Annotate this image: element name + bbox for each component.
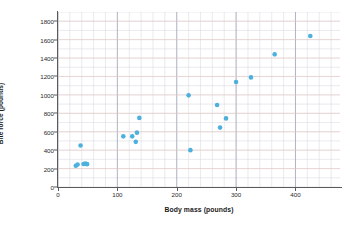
data-point: 33, 245 (75, 162, 80, 167)
y-tick-mark (54, 150, 57, 151)
data-point: 283, 745 (224, 116, 229, 121)
y-tick-label: 200 (28, 165, 54, 172)
x-axis-line (57, 187, 342, 188)
data-point: 131, 490 (133, 140, 138, 145)
scatter-chart-figure: Bite force (pounds) 30, 23033, 24538, 45… (0, 0, 350, 227)
data-point: 110, 550 (121, 134, 126, 139)
y-tick-label: 1000 (28, 91, 54, 98)
data-point: 300, 1140 (234, 80, 239, 85)
data-point: 268, 890 (215, 103, 220, 108)
x-tick-mark (117, 188, 118, 191)
y-tick-mark (54, 113, 57, 114)
y-tick-label: 1600 (28, 36, 54, 43)
y-tick-mark (54, 187, 57, 188)
x-axis-title: Body mass (pounds) (58, 206, 340, 213)
y-tick-label: 400 (28, 147, 54, 154)
data-point: 325, 1190 (249, 75, 254, 80)
x-tick-label: 400 (280, 191, 310, 198)
x-tick-label: 300 (221, 191, 251, 198)
x-tick-mark (58, 188, 59, 191)
y-tick-mark (54, 94, 57, 95)
y-axis-line (57, 11, 58, 188)
data-point: 49, 248 (85, 162, 90, 167)
y-tick-label: 1800 (28, 18, 54, 25)
y-tick-label: 1200 (28, 73, 54, 80)
x-tick-mark (177, 188, 178, 191)
x-tick-label: 200 (162, 191, 192, 198)
x-tick-label: 100 (102, 191, 132, 198)
y-tick-mark (54, 21, 57, 22)
y-tick-mark (54, 39, 57, 40)
y-tick-mark (54, 168, 57, 169)
data-point: 365, 1440 (272, 52, 277, 57)
y-tick-mark (54, 58, 57, 59)
y-tick-label: 800 (28, 110, 54, 117)
data-points-layer: 30, 23033, 24538, 45043, 25046, 25549, 2… (58, 12, 340, 187)
x-tick-label: 0 (43, 191, 73, 198)
data-point: 137, 750 (137, 116, 142, 121)
x-tick-mark (295, 188, 296, 191)
x-tick-mark (236, 188, 237, 191)
data-point: 220, 995 (186, 93, 191, 98)
data-point: 133, 590 (135, 130, 140, 135)
data-point: 125, 550 (130, 134, 135, 139)
y-tick-label: 0 (28, 184, 54, 191)
data-point: 223, 400 (188, 148, 193, 153)
data-point: 38, 450 (78, 143, 83, 148)
y-tick-label: 600 (28, 128, 54, 135)
data-point: 425, 1640 (308, 34, 313, 39)
y-tick-mark (54, 76, 57, 77)
y-tick-mark (54, 131, 57, 132)
plot-area: 30, 23033, 24538, 45043, 25046, 25549, 2… (58, 12, 340, 187)
y-tick-label: 1400 (28, 55, 54, 62)
data-point: 273, 645 (218, 125, 223, 130)
